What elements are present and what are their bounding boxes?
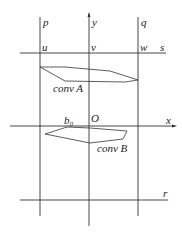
label-v: v (91, 41, 96, 53)
label-b0: b0 (64, 114, 74, 128)
x-axis-arrow-icon (172, 125, 177, 128)
label-w: w (140, 41, 148, 53)
label-b0-sub: 0 (70, 120, 74, 128)
label-conv-b: conv B (97, 142, 128, 154)
label-q: q (141, 16, 147, 28)
label-p: p (42, 16, 49, 28)
label-conv-a: conv A (53, 82, 83, 94)
conv-b-polygon (45, 127, 127, 143)
label-x: x (165, 114, 171, 126)
label-s: s (160, 41, 164, 53)
label-r: r (163, 187, 168, 199)
diagram-canvas: p y q u v w s conv A b0 O x conv B r (0, 0, 182, 234)
y-axis-arrow-icon (88, 12, 91, 17)
label-y: y (91, 16, 97, 28)
label-origin: O (91, 112, 99, 124)
label-u: u (42, 41, 48, 53)
